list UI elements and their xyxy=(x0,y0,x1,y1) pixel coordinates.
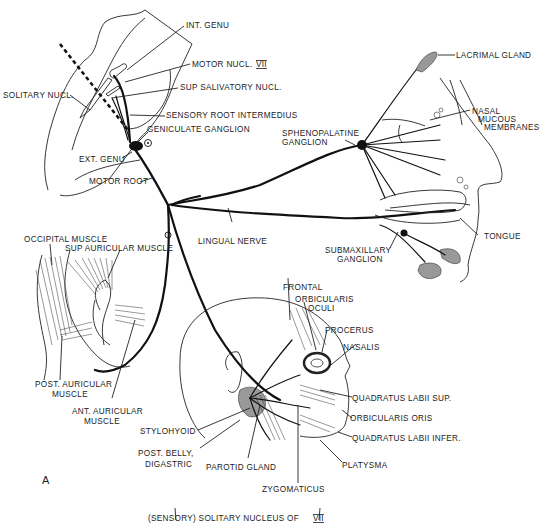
label-tongue: TONGUE xyxy=(484,232,521,241)
submaxillary-gland-shape xyxy=(418,263,441,279)
label-post-auricular-2: MUSCLE xyxy=(52,390,88,399)
label-lingual-nerve: LINGUAL NERVE xyxy=(198,237,267,246)
label-parotid-gland: PAROTID GLAND xyxy=(206,463,276,472)
label-occipital-muscle: OCCIPITAL MUSCLE xyxy=(24,235,108,244)
label-motor-nucl: MOTOR NUCL. xyxy=(192,60,252,69)
label-motor-root: MOTOR ROOT xyxy=(89,177,148,186)
orbicularis-oculi-shape xyxy=(304,353,330,373)
label-sphenopalatine-2: GANGLION xyxy=(282,138,328,147)
label-quadratus-labii-infer: QUADRATUS LABII INFER. xyxy=(352,434,461,443)
facial-nerve-diagram: INT. GENU MOTOR NUCL. VII SUP SALIVATORY… xyxy=(0,0,541,529)
label-quadratus-labii-sup: QUADRATUS LABII SUP. xyxy=(352,394,451,403)
sublingual-gland-shape xyxy=(440,249,460,264)
label-orbicularis-oris: ORBICULARIS ORIS xyxy=(350,414,433,423)
bottom-caption-numeral: VII xyxy=(313,514,324,523)
face-muscles-section xyxy=(180,298,350,440)
label-lacrimal-gland: LACRIMAL GLAND xyxy=(456,51,531,60)
brainstem-section xyxy=(45,10,192,196)
section-plane-dashed-line xyxy=(60,44,128,130)
panel-letter: A xyxy=(42,474,50,486)
label-stylohyoid: STYLOHYOID xyxy=(140,427,196,436)
label-solitary-nucl: SOLITARY NUCL. xyxy=(3,91,74,100)
label-sup-auricular-muscle: SUP AURICULAR MUSCLE xyxy=(65,244,173,253)
label-orbicularis-oculi-1: ORBICULARIS xyxy=(295,295,354,304)
leader-lines xyxy=(50,26,478,520)
label-int-genu: INT. GENU xyxy=(186,21,229,30)
label-frontal: FRONTAL xyxy=(283,283,323,292)
label-post-auricular-1: POST. AURICULAR xyxy=(35,380,112,389)
label-sphenopalatine-1: SPHENOPALATINE xyxy=(282,129,359,138)
label-sup-salivatory: SUP SALIVATORY NUCL. xyxy=(180,83,282,92)
label-procerus: PROCERUS xyxy=(325,326,374,335)
label-sensory-root: SENSORY ROOT INTERMEDIUS xyxy=(166,111,298,120)
label-ext-genu: EXT. GENU xyxy=(79,155,125,164)
label-nasal-3: MEMBRANES xyxy=(484,123,540,132)
lacrimal-gland-shape xyxy=(416,52,437,72)
label-geniculate-ganglion: GENICULATE GANGLION xyxy=(147,125,250,134)
label-orbicularis-oculi-2: OCULI xyxy=(308,304,335,313)
label-motor-nucl-numeral: VII xyxy=(256,60,267,69)
label-post-belly-2: DIGASTRIC xyxy=(145,460,192,469)
label-post-belly-1: POST. BELLY, xyxy=(138,449,194,458)
label-ant-auricular-1: ANT. AURICULAR xyxy=(72,407,143,416)
label-submaxillary-2: GANGLION xyxy=(337,255,383,264)
label-nasalis: NASALIS xyxy=(343,343,380,352)
label-zygomaticus: ZYGOMATICUS xyxy=(262,485,325,494)
bottom-caption: (SENSORY) SOLITARY NUCLEUS OF xyxy=(148,514,299,523)
label-platysma: PLATYSMA xyxy=(342,461,388,470)
label-ant-auricular-2: MUSCLE xyxy=(84,417,120,426)
label-submaxillary-1: SUBMAXILLARY xyxy=(325,246,391,255)
